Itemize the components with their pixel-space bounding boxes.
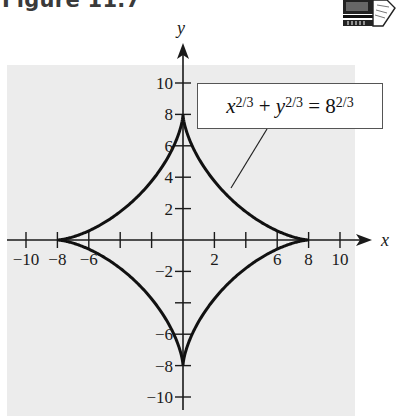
x-tick-label: 10 (332, 250, 349, 269)
y-tick-label: −2 (155, 262, 173, 281)
astroid-plot: −10−8−626810108642−2−6−8−10 x y (0, 0, 401, 416)
x-tick-label: −8 (48, 250, 66, 269)
x-tick-label: 6 (273, 250, 282, 269)
eq-y-exp: 2/3 (285, 95, 303, 111)
eq-y: y (276, 94, 285, 119)
y-axis-label: y (175, 18, 185, 38)
eq-rhs: 8 (325, 94, 336, 119)
eq-x-exp: 2/3 (236, 95, 254, 111)
y-tick-label: 10 (156, 74, 173, 93)
equation-label: x2/3 + y2/3 = 82/3 (197, 83, 383, 129)
eq-x: x (226, 94, 235, 119)
x-tick-label: −10 (13, 250, 40, 269)
y-tick-label: 4 (165, 168, 174, 187)
y-tick-label: −10 (146, 388, 173, 407)
x-axis-label: x (380, 230, 389, 250)
eq-rhs-exp: 2/3 (336, 95, 354, 111)
x-tick-label: 8 (304, 250, 313, 269)
y-tick-label: −6 (155, 325, 173, 344)
eq-equals: = (303, 94, 325, 119)
y-tick-label: 8 (165, 105, 174, 124)
x-tick-label: 2 (210, 250, 219, 269)
y-tick-label: 6 (165, 137, 174, 156)
x-tick-label: −6 (80, 250, 98, 269)
y-tick-label: 2 (165, 200, 174, 219)
eq-plus: + (253, 94, 275, 119)
y-tick-label: −8 (155, 357, 173, 376)
